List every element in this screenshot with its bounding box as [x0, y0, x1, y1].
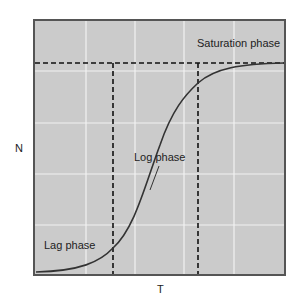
log-phase-label: Log phase	[134, 151, 185, 163]
y-axis-label: N	[15, 142, 23, 154]
lag-phase-label: Lag phase	[44, 239, 95, 251]
x-axis-label: T	[157, 283, 164, 295]
saturation-phase-label: Saturation phase	[197, 37, 280, 49]
growth-curve-diagram: Saturation phase Log phase Lag phase N T	[0, 0, 298, 304]
